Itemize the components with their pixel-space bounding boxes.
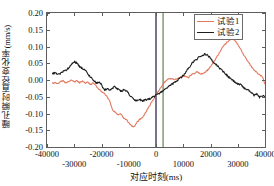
y-tick-label: 0.15 xyxy=(28,25,43,35)
y-tick-mark xyxy=(262,13,265,14)
y-tick-mark xyxy=(262,30,265,31)
x-axis-tick-labels: -40000-30000-20000-100000100002000030000… xyxy=(0,149,274,171)
x-tick-mark xyxy=(211,144,212,147)
x-tick-mark xyxy=(265,13,266,16)
y-tick-mark xyxy=(47,130,50,131)
x-tick-label: 30000 xyxy=(227,159,248,169)
y-axis-title: 瞳孔瞬时直径变化率(mm/s) xyxy=(0,0,14,152)
legend-swatch-series2 xyxy=(197,32,214,33)
y-axis-title-text: 瞳孔瞬时直径变化率(mm/s) xyxy=(3,25,12,128)
y-tick-mark xyxy=(262,97,265,98)
x-axis-title-text: 对应时刻(ms) xyxy=(130,172,183,182)
x-tick-mark xyxy=(102,13,103,16)
y-tick-mark xyxy=(262,63,265,64)
y-tick-mark xyxy=(47,80,50,81)
legend-item-1[interactable]: 试验1 xyxy=(197,16,239,27)
vertical-marker-lines xyxy=(156,13,163,147)
x-tick-mark xyxy=(156,13,157,16)
x-axis-title: 对应时刻(ms) xyxy=(46,170,266,183)
series-line-2 xyxy=(52,53,265,101)
legend-label-series2: 试验2 xyxy=(217,28,239,37)
x-tick-mark xyxy=(129,144,130,147)
series-line-1 xyxy=(52,38,265,127)
legend-label-series1: 试验1 xyxy=(217,17,239,26)
x-tick-mark xyxy=(129,13,130,16)
legend-swatch-series1 xyxy=(197,21,214,22)
y-tick-mark xyxy=(262,114,265,115)
x-tick-mark xyxy=(238,144,239,147)
y-tick-mark xyxy=(47,13,50,14)
x-tick-mark xyxy=(265,144,266,147)
x-tick-mark xyxy=(183,13,184,16)
y-tick-label: 0.05 xyxy=(28,58,43,68)
x-tick-label: -30000 xyxy=(62,159,86,169)
y-tick-label: 0.20 xyxy=(28,8,43,18)
x-tick-mark xyxy=(183,144,184,147)
x-tick-label: -10000 xyxy=(117,159,141,169)
y-tick-label: 0.10 xyxy=(28,42,43,52)
y-tick-label: -0.15 xyxy=(25,125,43,135)
x-tick-mark xyxy=(156,144,157,147)
x-tick-label: 10000 xyxy=(173,159,194,169)
chart-legend: 试验1 试验2 xyxy=(194,14,243,40)
y-tick-mark xyxy=(262,130,265,131)
x-tick-label: 20000 xyxy=(200,149,221,159)
y-tick-mark xyxy=(47,147,50,148)
x-tick-mark xyxy=(74,13,75,16)
y-tick-mark xyxy=(262,147,265,148)
y-tick-mark xyxy=(262,47,265,48)
y-tick-label: -0.05 xyxy=(25,92,43,102)
y-axis-tick-labels: 0.200.150.100.050.00-0.05-0.10-0.15-0.20 xyxy=(13,12,45,148)
x-tick-label: 0 xyxy=(154,149,158,159)
y-tick-mark xyxy=(47,30,50,31)
chart-figure: 瞳孔瞬时直径变化率(mm/s) 0.200.150.100.050.00-0.0… xyxy=(0,0,274,186)
x-tick-label: -40000 xyxy=(35,149,59,159)
y-tick-mark xyxy=(262,80,265,81)
y-tick-mark xyxy=(47,97,50,98)
y-tick-label: -0.10 xyxy=(25,109,43,119)
x-tick-label: 40000 xyxy=(254,149,274,159)
y-tick-mark xyxy=(47,63,50,64)
y-tick-label: 0.00 xyxy=(28,75,43,85)
y-tick-mark xyxy=(47,47,50,48)
y-tick-mark xyxy=(47,114,50,115)
x-tick-mark xyxy=(74,144,75,147)
x-tick-mark xyxy=(102,144,103,147)
x-tick-label: -20000 xyxy=(89,149,113,159)
legend-item-2[interactable]: 试验2 xyxy=(197,27,239,38)
